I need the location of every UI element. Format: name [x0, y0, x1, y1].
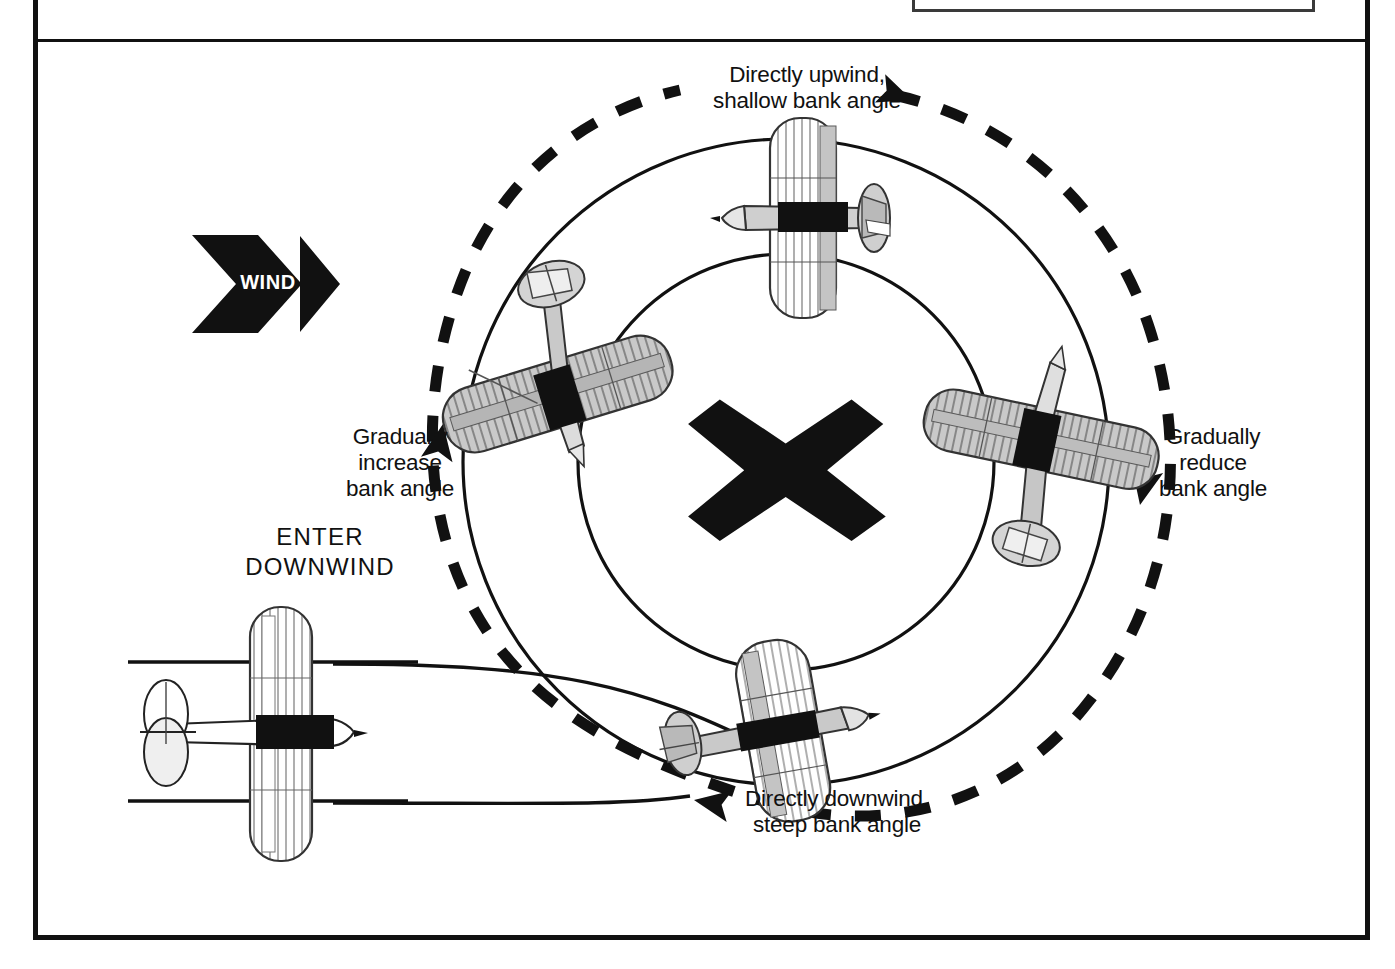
empennage	[512, 253, 590, 315]
empennage	[140, 680, 196, 786]
x-ground-reference-point	[688, 399, 886, 541]
label-directly-downwind: Directly downwind, steep bank angle	[637, 786, 1037, 838]
wing-root-band	[778, 202, 848, 232]
label-reduce-bank: Gradually reduce bank angle	[1103, 424, 1323, 502]
aircraft-entry	[140, 607, 368, 861]
wind-arrow-label: WIND	[208, 271, 328, 294]
empennage	[988, 515, 1064, 572]
label-directly-upwind: Directly upwind, shallow bank angle	[607, 62, 1007, 114]
empennage	[858, 184, 890, 252]
label-increase-bank: Gradually increase bank angle	[290, 424, 510, 502]
diagram-page: Directly upwind, shallow bank angle Grad…	[0, 0, 1395, 969]
wing-root-band	[256, 715, 334, 749]
label-enter-downwind: ENTER DOWNWIND	[170, 522, 470, 582]
